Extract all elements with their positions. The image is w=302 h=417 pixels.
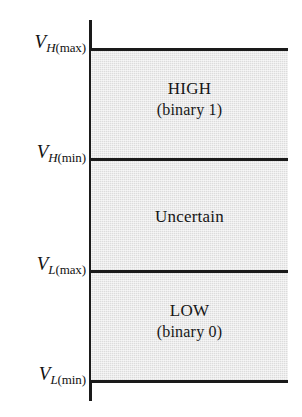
axis-label-vl-min-symbol: V: [39, 363, 51, 384]
band-label-uncertain-title: Uncertain: [155, 207, 224, 226]
band-label-uncertain: Uncertain: [91, 206, 288, 227]
axis-label-vl-min: VL(min): [39, 364, 86, 386]
band-label-low: LOW (binary 0): [91, 300, 288, 342]
axis-label-vl-max: VL(max): [37, 254, 86, 276]
band-label-high-title: HIGH: [168, 79, 211, 98]
axis-label-vh-min-subletter: H: [48, 150, 57, 165]
axis-label-vh-max-qualifier: (max): [55, 40, 86, 55]
band-label-high-subtitle: (binary 1): [91, 99, 288, 120]
threshold-line-vl-min: [89, 380, 288, 383]
axis-label-vh-min-qualifier: (min): [58, 150, 86, 165]
threshold-line-vh-min: [89, 158, 288, 161]
axis-label-vh-min: VH(min): [37, 142, 86, 164]
threshold-line-vl-max: [89, 270, 288, 273]
axis-label-vh-max: VH(max): [35, 32, 86, 54]
logic-level-voltage-diagram: HIGH (binary 1) Uncertain LOW (binary 0)…: [0, 0, 302, 417]
axis-label-vl-min-subletter: L: [50, 372, 57, 387]
axis-label-vl-max-symbol: V: [37, 253, 49, 274]
band-label-low-title: LOW: [170, 301, 209, 320]
band-label-low-subtitle: (binary 0): [91, 321, 288, 342]
axis-label-vh-min-symbol: V: [37, 141, 49, 162]
axis-label-vl-max-qualifier: (max): [55, 262, 86, 277]
threshold-line-vh-max: [89, 48, 288, 51]
band-label-high: HIGH (binary 1): [91, 78, 288, 120]
axis-label-vh-max-symbol: V: [35, 31, 47, 52]
axis-label-vl-min-qualifier: (min): [58, 372, 86, 387]
